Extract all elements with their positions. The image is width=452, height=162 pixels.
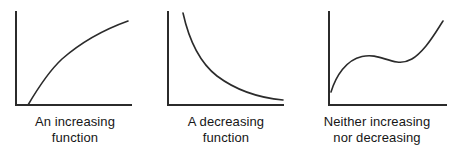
- plot-decreasing-function: [151, 0, 301, 112]
- caption-decreasing-function: A decreasing function: [151, 114, 301, 146]
- caption-line-2: function: [0, 130, 150, 146]
- axes-neither: [329, 12, 446, 105]
- caption-increasing-function: An increasing function: [0, 114, 150, 146]
- caption-line-1: An increasing: [0, 114, 150, 130]
- curve-neither: [331, 21, 443, 92]
- plot-increasing-function: [0, 0, 150, 112]
- panel-decreasing-function: A decreasing function: [151, 0, 301, 162]
- panel-increasing-function: An increasing function: [0, 0, 150, 162]
- caption-line-2: function: [151, 130, 301, 146]
- caption-line-1: Neither increasing: [302, 114, 452, 130]
- caption-neither-function: Neither increasing nor decreasing: [302, 114, 452, 146]
- caption-line-1: A decreasing: [151, 114, 301, 130]
- curve-increasing: [28, 21, 128, 105]
- caption-line-2: nor decreasing: [302, 130, 452, 146]
- axes-decreasing: [168, 12, 283, 105]
- plot-neither-function: [302, 0, 452, 112]
- curve-decreasing: [183, 13, 283, 100]
- function-monotonicity-figure: An increasing function A decreasing func…: [0, 0, 452, 162]
- panel-neither-function: Neither increasing nor decreasing: [302, 0, 452, 162]
